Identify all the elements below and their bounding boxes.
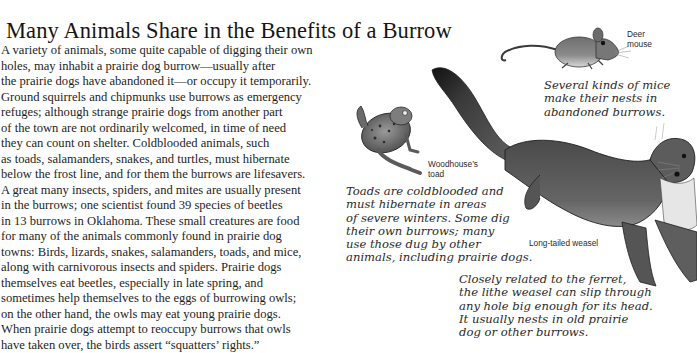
body-line: When prairie dogs attempt to reoccupy bu… [1, 322, 361, 338]
body-line: in the burrows; one scientist found 39 s… [1, 198, 361, 214]
body-line: holes, may inhabit a prairie dog burrow—… [1, 59, 361, 75]
body-line: A great many insects, spiders, and mites… [1, 183, 361, 199]
body-line: they can count on shelter. Coldblooded a… [1, 136, 361, 152]
body-line: Ground squirrels and chipmunks use burro… [1, 90, 361, 106]
body-line: A variety of animals, some quite capable… [1, 43, 361, 59]
body-line: refuges; although strange prairie dogs f… [1, 105, 361, 121]
body-line: along with carnivorous insects and spide… [1, 260, 361, 276]
toad-label: Woodhouse’s toad [428, 159, 478, 179]
weasel-caption: Closely related to the ferret, the lithe… [459, 273, 653, 339]
deer-mouse-drawing [502, 28, 631, 69]
body-line: towns: Birds, lizards, snakes, salamande… [1, 245, 361, 261]
woodhouses-toad-drawing [356, 106, 420, 173]
body-paragraph: A variety of animals, some quite capable… [1, 43, 361, 353]
body-line: have taken over, the birds assert “squat… [1, 338, 361, 353]
page-title: Many Animals Share in the Benefits of a … [6, 18, 452, 44]
body-line: of the town are not ordinarily welcomed,… [1, 121, 361, 137]
body-line: on the other hand, the owls may eat youn… [1, 307, 361, 323]
deer-mouse-caption: Several kinds of mice make their nests i… [544, 79, 670, 119]
toad-caption: Toads are coldblooded and must hibernate… [346, 185, 532, 265]
body-line: in 13 burrows in Oklahoma. These small c… [1, 214, 361, 230]
body-line: below the frost line, and for them the b… [1, 167, 361, 183]
body-line: themselves eat beetles, especially in la… [1, 276, 361, 292]
body-line: sometimes help themselves to the eggs of… [1, 291, 361, 307]
deer-mouse-label: Deer mouse [627, 29, 652, 49]
body-line: the prairie dogs have abandoned it—or oc… [1, 74, 361, 90]
body-line: as toads, salamanders, snakes, and turtl… [1, 152, 361, 168]
body-line: for many of the animals commonly found i… [1, 229, 361, 245]
weasel-label: Long-tailed weasel [529, 238, 598, 248]
